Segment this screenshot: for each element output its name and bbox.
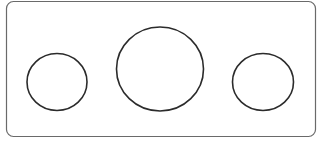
rounded-frame xyxy=(7,2,316,137)
diagram-canvas xyxy=(0,0,326,141)
diagram-svg xyxy=(0,0,326,141)
